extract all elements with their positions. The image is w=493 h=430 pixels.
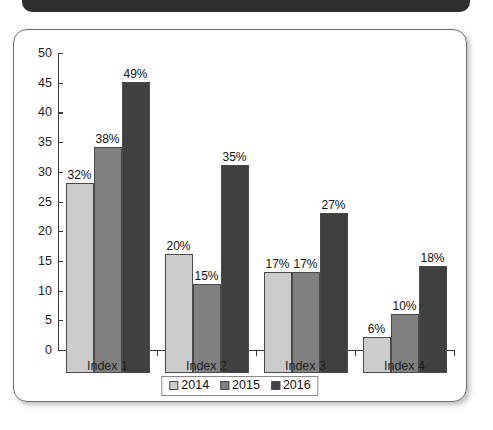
x-category-label-3: Index 3 [285, 359, 326, 373]
bar-value-label: 32% [67, 168, 91, 182]
y-tick-mark [58, 53, 63, 54]
bar-2016-index-1[interactable]: 49% [122, 82, 150, 373]
x-tick-mark [454, 350, 455, 356]
legend-label: 2016 [283, 379, 311, 392]
y-tick-mark [58, 172, 63, 173]
y-tick-label: 0 [45, 343, 52, 357]
bar-2016-index-3[interactable]: 27% [320, 213, 348, 373]
y-tick-label: 50 [38, 46, 52, 60]
bar-value-label: 10% [392, 299, 416, 313]
x-category-label-4: Index 4 [384, 359, 425, 373]
y-tick-mark [58, 142, 63, 143]
y-tick-label: 5 [45, 313, 52, 327]
bar-2015-index-1[interactable]: 38% [94, 147, 122, 373]
chart-card: 05101520253035404550 32%38%49%20%15%35%1… [13, 29, 467, 402]
y-tick-label: 40 [38, 105, 52, 119]
x-tick-mark [355, 350, 356, 356]
legend-label: 2015 [232, 379, 260, 392]
bar-2016-index-4[interactable]: 18% [419, 266, 447, 373]
legend-item-2015[interactable]: 2015 [220, 379, 260, 392]
legend-swatch-icon [169, 381, 178, 390]
y-tick-mark [58, 231, 63, 232]
plot-area: 05101520253035404550 32%38%49%20%15%35%1… [58, 53, 454, 373]
bar-value-label: 18% [420, 251, 444, 265]
legend-item-2016[interactable]: 2016 [271, 379, 311, 392]
bar-value-label: 49% [123, 67, 147, 81]
bar-value-label: 38% [95, 132, 119, 146]
y-tick-mark [58, 350, 63, 351]
bar-2014-index-3[interactable]: 17% [264, 272, 292, 373]
y-tick-mark [58, 261, 63, 262]
legend-swatch-icon [220, 381, 229, 390]
legend-label: 2014 [181, 379, 209, 392]
x-category-label-2: Index 2 [186, 359, 227, 373]
bar-2016-index-2[interactable]: 35% [221, 165, 249, 373]
x-category-label-1: Index 1 [87, 359, 128, 373]
x-tick-mark [157, 350, 158, 356]
bar-value-label: 35% [222, 150, 246, 164]
chart-legend: 201420152016 [161, 376, 318, 396]
bar-value-label: 17% [293, 257, 317, 271]
legend-swatch-icon [271, 381, 280, 390]
bar-value-label: 15% [194, 269, 218, 283]
y-tick-mark [58, 112, 63, 113]
y-tick-mark [58, 291, 63, 292]
y-tick-label: 45 [38, 76, 52, 90]
y-tick-label: 15 [38, 254, 52, 268]
legend-item-2014[interactable]: 2014 [169, 379, 209, 392]
y-tick-mark [58, 202, 63, 203]
bar-2015-index-3[interactable]: 17% [292, 272, 320, 373]
bar-2014-index-1[interactable]: 32% [66, 183, 94, 373]
x-tick-mark [256, 350, 257, 356]
y-tick-label: 10 [38, 284, 52, 298]
y-tick-label: 30 [38, 165, 52, 179]
bar-value-label: 27% [321, 198, 345, 212]
y-tick-label: 35 [38, 135, 52, 149]
bar-value-label: 6% [368, 322, 385, 336]
bar-2014-index-2[interactable]: 20% [165, 254, 193, 373]
bar-value-label: 17% [265, 257, 289, 271]
y-tick-label: 20 [38, 224, 52, 238]
top-dark-banner [22, 0, 470, 12]
bar-value-label: 20% [166, 239, 190, 253]
y-tick-mark [58, 83, 63, 84]
y-tick-label: 25 [38, 195, 52, 209]
y-tick-mark [58, 320, 63, 321]
